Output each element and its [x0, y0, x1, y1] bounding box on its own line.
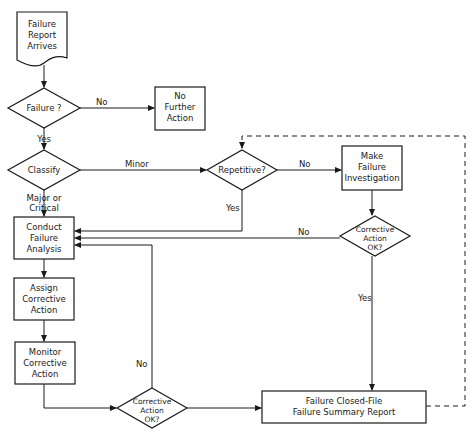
svg-text:Action: Action	[32, 369, 59, 379]
node-failure-closed-file: Failure Closed-File Failure Summary Repo…	[262, 391, 426, 423]
label-ca-right-yes: Yes	[357, 293, 372, 303]
svg-text:Investigation: Investigation	[344, 173, 399, 183]
edge-monitor-to-ca	[44, 384, 116, 408]
svg-text:Corrective: Corrective	[356, 225, 395, 234]
label-failure-no: No	[96, 97, 108, 107]
node-monitor-corrective-action: Monitor Corrective Action	[15, 342, 75, 384]
node-repetitive-decision: Repetitive?	[207, 150, 277, 190]
svg-text:Action: Action	[363, 234, 387, 243]
svg-text:Monitor: Monitor	[29, 347, 62, 357]
svg-text:Failure: Failure	[30, 233, 58, 243]
svg-text:Action: Action	[140, 406, 164, 415]
svg-text:Analysis: Analysis	[26, 244, 62, 254]
svg-text:Report: Report	[28, 30, 57, 40]
label-ca-bottom-no: No	[136, 359, 148, 369]
svg-text:OK?: OK?	[368, 243, 383, 252]
svg-text:Make: Make	[361, 151, 383, 161]
label-classify-minor: Minor	[125, 159, 149, 169]
edge-labels: No Yes Minor Major or Critical No Yes No…	[27, 97, 373, 369]
svg-text:Failure ?: Failure ?	[26, 103, 61, 113]
node-conduct-failure-analysis: Conduct Failure Analysis	[14, 217, 74, 259]
svg-text:Failure: Failure	[358, 162, 386, 172]
svg-text:OK?: OK?	[145, 415, 160, 424]
node-no-further-action: No Further Action	[155, 87, 205, 130]
svg-text:Action: Action	[31, 305, 58, 315]
label-classify-critical: Critical	[29, 203, 59, 213]
svg-text:Assign: Assign	[30, 283, 58, 293]
svg-text:Failure Summary Report: Failure Summary Report	[293, 407, 396, 417]
edge-repetitive-yes	[75, 190, 242, 231]
svg-text:Action: Action	[167, 113, 194, 123]
node-corrective-action-ok-right: Corrective Action OK?	[340, 216, 410, 256]
node-assign-corrective-action: Assign Corrective Action	[14, 278, 74, 320]
label-repetitive-no: No	[299, 159, 311, 169]
svg-text:Failure: Failure	[28, 19, 56, 29]
label-repetitive-yes: Yes	[225, 203, 240, 213]
svg-text:Corrective: Corrective	[23, 358, 67, 368]
svg-text:Classify: Classify	[28, 165, 61, 175]
svg-text:No: No	[174, 91, 186, 101]
node-failure-report-arrives: Failure Report Arrives	[17, 12, 67, 66]
node-classify-decision: Classify	[8, 150, 80, 190]
svg-text:Repetitive?: Repetitive?	[218, 165, 266, 175]
node-corrective-action-ok-bottom: Corrective Action OK?	[117, 388, 187, 428]
svg-text:Arrives: Arrives	[27, 41, 57, 51]
svg-text:Failure Closed-File: Failure Closed-File	[306, 396, 383, 406]
svg-text:Corrective: Corrective	[133, 397, 172, 406]
svg-text:Corrective: Corrective	[22, 294, 66, 304]
node-failure-decision: Failure ?	[8, 88, 80, 128]
label-classify-major: Major or	[27, 193, 63, 203]
svg-text:Further: Further	[165, 102, 196, 112]
label-failure-yes: Yes	[36, 134, 51, 144]
flowchart: Failure Report Arrives Failure ? No Furt…	[0, 0, 473, 434]
label-ca-right-no: No	[298, 227, 310, 237]
node-make-failure-investigation: Make Failure Investigation	[342, 146, 402, 190]
svg-text:Conduct: Conduct	[26, 222, 62, 232]
